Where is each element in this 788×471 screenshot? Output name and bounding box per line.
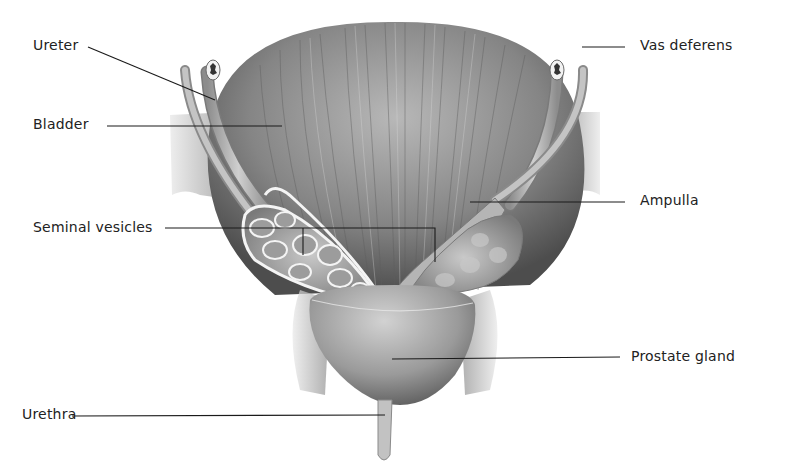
urethra-shape bbox=[378, 400, 392, 460]
label-prostate-gland: Prostate gland bbox=[631, 348, 735, 364]
anatomy-illustration bbox=[0, 0, 788, 471]
label-seminal-vesicles: Seminal vesicles bbox=[33, 219, 153, 235]
leader-ureter bbox=[88, 47, 215, 100]
prostate-shape bbox=[309, 285, 475, 405]
label-vas-deferens: Vas deferens bbox=[640, 37, 732, 53]
label-ureter: Ureter bbox=[33, 37, 78, 53]
label-bladder: Bladder bbox=[33, 116, 89, 132]
leader-urethra bbox=[72, 415, 385, 416]
label-urethra: Urethra bbox=[22, 406, 76, 422]
label-ampulla: Ampulla bbox=[640, 192, 699, 208]
